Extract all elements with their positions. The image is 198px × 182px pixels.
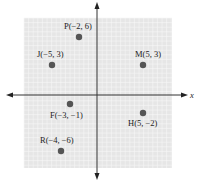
point-J-dot [49, 62, 55, 68]
point-J-label: J(−5, 3) [37, 49, 64, 59]
point-M-label: M(5, 3) [135, 49, 161, 59]
x-axis-label: x [189, 90, 194, 100]
point-P-dot [76, 34, 82, 40]
point-M-dot [140, 62, 146, 68]
point-H-dot [140, 110, 146, 116]
point-H-label: H(5, −2) [128, 118, 158, 128]
coordinate-plane: x P(−2, 6) J(−5, 3) M(5, 3) F(−3, −1) H(… [0, 0, 198, 182]
point-F-label: F(−3, −1) [50, 110, 83, 120]
y-axis-down-arrow-icon [95, 173, 100, 180]
x-axis-left-arrow-icon [6, 93, 13, 98]
point-F-dot [67, 101, 73, 107]
grid-background [24, 18, 172, 168]
y-axis-up-arrow-icon [95, 2, 100, 9]
x-axis-right-arrow-icon [181, 93, 188, 98]
point-P-label: P(−2, 6) [64, 21, 92, 31]
point-R-label: R(−4, −6) [40, 135, 74, 145]
point-R-dot [58, 148, 64, 154]
